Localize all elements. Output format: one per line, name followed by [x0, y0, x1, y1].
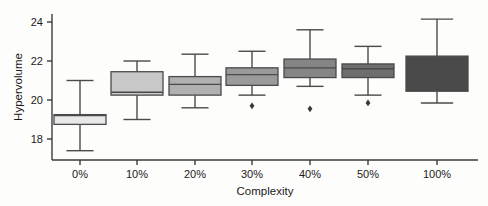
- x-tick-label-0%: 0%: [72, 168, 88, 180]
- y-tick-label-24: 24: [31, 16, 43, 28]
- boxplot-40%: [284, 30, 336, 112]
- box-body: [226, 68, 278, 86]
- x-tick-label-30%: 30%: [241, 168, 263, 180]
- chart-canvas: 182022240%10%20%30%40%50%100%ComplexityH…: [0, 0, 488, 206]
- x-tick-label-20%: 20%: [184, 168, 206, 180]
- y-tick-label-18: 18: [31, 133, 43, 145]
- x-axis-title: Complexity: [237, 185, 294, 197]
- boxplot-30%: [226, 51, 278, 109]
- x-tick-label-10%: 10%: [126, 168, 148, 180]
- x-tick-label-100%: 100%: [423, 168, 451, 180]
- boxplot-20%: [169, 54, 221, 108]
- outlier-marker-0: [250, 102, 255, 109]
- y-tick-label-20: 20: [31, 94, 43, 106]
- boxplot-100%: [406, 19, 468, 103]
- box-body: [406, 56, 468, 91]
- y-tick-label-22: 22: [31, 55, 43, 67]
- box-body: [169, 77, 221, 96]
- boxplot-chart: 182022240%10%20%30%40%50%100%ComplexityH…: [0, 0, 488, 206]
- y-axis-title: Hypervolume: [12, 53, 24, 121]
- boxplot-10%: [111, 61, 163, 120]
- outlier-marker-0: [308, 105, 313, 112]
- outlier-marker-0: [366, 100, 371, 107]
- boxplot-0%: [54, 81, 106, 151]
- box-body: [342, 64, 394, 78]
- x-tick-label-40%: 40%: [299, 168, 321, 180]
- x-tick-label-50%: 50%: [357, 168, 379, 180]
- boxplot-50%: [342, 46, 394, 106]
